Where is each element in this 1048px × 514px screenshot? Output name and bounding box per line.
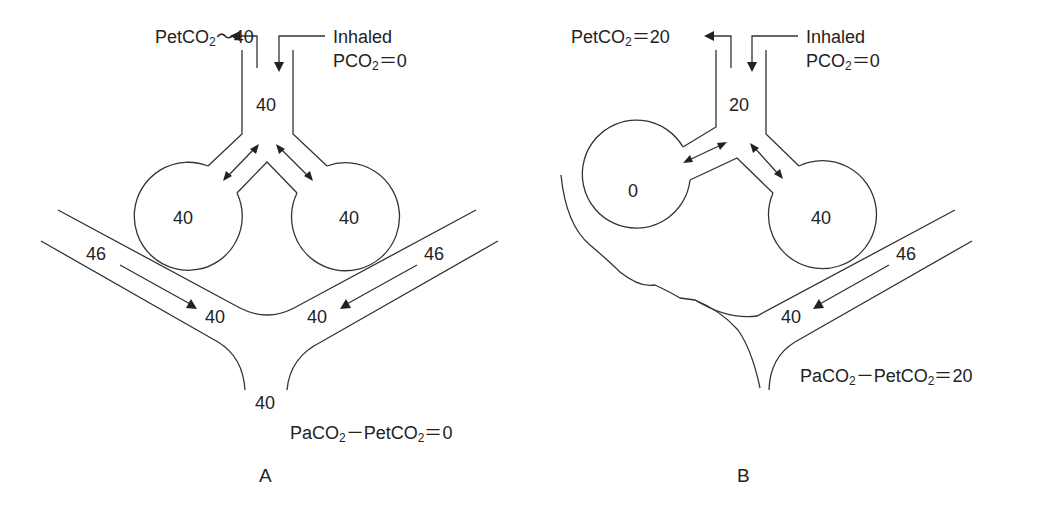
panel-b-drawing bbox=[561, 31, 972, 390]
inhaled-label-a: Inhaled bbox=[333, 28, 392, 46]
capillary-left-out-a: 40 bbox=[205, 308, 225, 326]
inhaled-pco2-label-a: PCO2＝0 bbox=[333, 52, 407, 72]
petco2-label-a: PetCO2～40 bbox=[155, 28, 254, 48]
alveolus-left-b bbox=[582, 120, 690, 228]
alveolus-right-value-a: 40 bbox=[339, 209, 359, 227]
capillary-right-in-a: 46 bbox=[424, 245, 444, 263]
panel-a-drawing bbox=[41, 31, 498, 390]
mixed-venous-value-a: 40 bbox=[255, 394, 275, 412]
inhaled-pco2-label-b: PCO2＝0 bbox=[806, 52, 880, 72]
panel-label-b: B bbox=[737, 466, 750, 485]
panel-label-a: A bbox=[259, 466, 272, 485]
expired-flow-arrow-b bbox=[708, 36, 731, 68]
inhaled-label-b: Inhaled bbox=[806, 28, 865, 46]
alveolus-left-value-b: 0 bbox=[628, 182, 638, 200]
capillary-left-in-a: 46 bbox=[86, 245, 106, 263]
airway-value-a: 40 bbox=[256, 96, 276, 114]
alveolus-left-value-a: 40 bbox=[173, 209, 193, 227]
capillary-right-in-b: 46 bbox=[896, 245, 916, 263]
inhaled-flow-arrow-a bbox=[279, 36, 325, 66]
alveolus-right-value-b: 40 bbox=[811, 209, 831, 227]
petco2-label-b: PetCO2＝20 bbox=[571, 28, 670, 48]
gradient-label-a: PaCO2－PetCO2＝0 bbox=[290, 424, 452, 444]
capillary-right-out-b: 40 bbox=[781, 308, 801, 326]
inhaled-flow-arrow-b bbox=[752, 36, 798, 66]
diagram-lines bbox=[0, 0, 1048, 514]
capillary-right-out-a: 40 bbox=[307, 308, 327, 326]
gradient-label-b: PaCO2－PetCO2＝20 bbox=[800, 367, 972, 387]
airway-value-b: 20 bbox=[729, 96, 749, 114]
